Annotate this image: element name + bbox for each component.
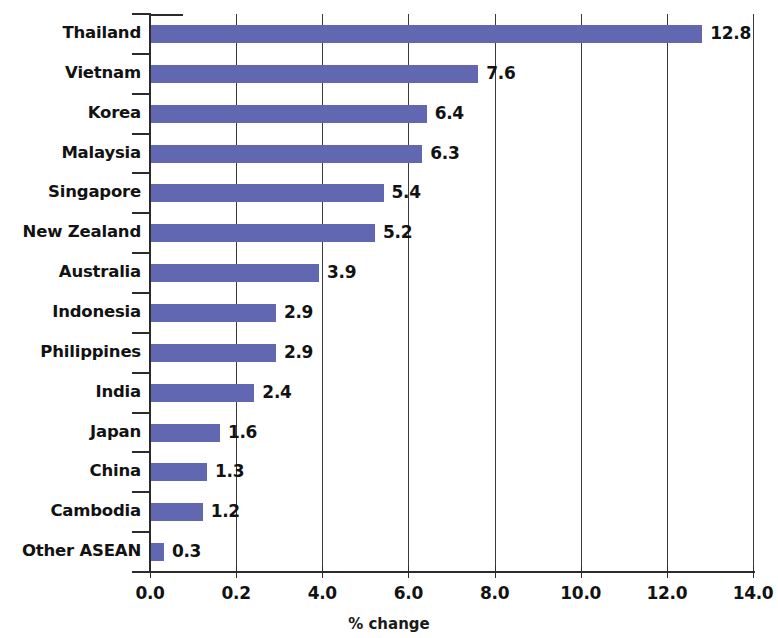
bar — [151, 463, 207, 481]
gridline — [753, 14, 754, 572]
bar-value-label: 7.6 — [486, 63, 515, 83]
y-tick-mark — [132, 451, 150, 453]
x-tick-label: 0.2 — [196, 583, 276, 603]
bar — [151, 184, 384, 202]
bar-chart: ThailandVietnamKoreaMalaysiaSingaporeNew… — [0, 0, 778, 638]
x-tick-mark — [236, 566, 237, 578]
category-label: Malaysia — [0, 143, 141, 162]
category-label: New Zealand — [0, 222, 141, 241]
bar-value-label: 1.3 — [215, 461, 244, 481]
x-tick-label: 0.0 — [110, 583, 190, 603]
x-tick-label: 6.0 — [368, 583, 448, 603]
gridline — [236, 14, 237, 572]
bar — [151, 344, 276, 362]
category-label: India — [0, 382, 141, 401]
category-label: Vietnam — [0, 63, 141, 82]
y-tick-mark — [132, 133, 150, 135]
bar — [151, 304, 276, 322]
bar — [151, 145, 422, 163]
x-tick-mark — [150, 566, 151, 578]
y-tick-mark — [132, 172, 150, 174]
gridline — [408, 14, 409, 572]
y-tick-mark — [132, 53, 150, 55]
y-tick-mark — [132, 531, 150, 533]
x-tick-label: 8.0 — [455, 583, 535, 603]
bar-value-label: 2.9 — [284, 342, 313, 362]
x-tick-mark — [495, 566, 496, 578]
bar — [151, 105, 427, 123]
category-label: Singapore — [0, 182, 141, 201]
bar-value-label: 0.3 — [172, 541, 201, 561]
y-tick-mark — [132, 212, 150, 214]
y-tick-mark — [132, 571, 150, 573]
bar-value-label: 2.9 — [284, 302, 313, 322]
y-tick-mark — [132, 13, 150, 15]
bar-value-label: 5.2 — [383, 222, 412, 242]
x-tick-label: 10.0 — [541, 583, 621, 603]
bar — [151, 65, 478, 83]
x-tick-mark — [753, 566, 754, 578]
bar-value-label: 1.2 — [211, 501, 240, 521]
x-tick-mark — [408, 566, 409, 578]
y-tick-mark — [132, 332, 150, 334]
x-tick-mark — [322, 566, 323, 578]
category-label: Indonesia — [0, 302, 141, 321]
y-tick-mark — [132, 372, 150, 374]
bar-value-label: 1.6 — [228, 422, 257, 442]
x-tick-label: 14.0 — [713, 583, 778, 603]
y-tick-mark — [132, 252, 150, 254]
bar — [151, 384, 254, 402]
category-label: Japan — [0, 422, 141, 441]
category-label: Other ASEAN — [0, 541, 141, 560]
category-label: Korea — [0, 103, 141, 122]
y-tick-mark — [132, 412, 150, 414]
bar-value-label: 2.4 — [262, 382, 291, 402]
x-axis-line — [149, 571, 755, 573]
gridline — [322, 14, 323, 572]
gridline — [495, 14, 496, 572]
bar — [151, 424, 220, 442]
x-axis-title: % change — [0, 615, 778, 633]
bar-value-label: 5.4 — [392, 182, 421, 202]
category-label: Thailand — [0, 23, 141, 42]
x-tick-label: 4.0 — [282, 583, 362, 603]
bar — [151, 224, 375, 242]
y-tick-mark — [132, 491, 150, 493]
gridline — [667, 14, 668, 572]
category-label: Philippines — [0, 342, 141, 361]
category-label: Cambodia — [0, 501, 141, 520]
x-tick-label: 12.0 — [627, 583, 707, 603]
bar-value-label: 6.4 — [435, 103, 464, 123]
bar-value-label: 12.8 — [710, 23, 751, 43]
bar-value-label: 6.3 — [430, 143, 459, 163]
category-label: China — [0, 461, 141, 480]
bar — [151, 264, 319, 282]
category-label: Australia — [0, 262, 141, 281]
bar — [151, 25, 702, 43]
plot-frame-top-segment — [149, 14, 183, 16]
bar — [151, 503, 203, 521]
bar-value-label: 3.9 — [327, 262, 356, 282]
y-tick-mark — [132, 292, 150, 294]
x-tick-mark — [667, 566, 668, 578]
gridline — [581, 14, 582, 572]
y-tick-mark — [132, 93, 150, 95]
x-tick-mark — [581, 566, 582, 578]
bar — [151, 543, 164, 561]
